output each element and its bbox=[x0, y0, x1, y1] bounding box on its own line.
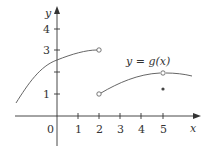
y-tick-1: 1 bbox=[43, 88, 50, 101]
right-branch-curve bbox=[101, 73, 192, 93]
x-tick-2: 2 bbox=[96, 123, 103, 136]
open-point-5-2 bbox=[161, 71, 165, 75]
function-label: y = g(x) bbox=[125, 55, 170, 68]
open-point-2-3 bbox=[97, 48, 101, 52]
x-tick-5: 5 bbox=[160, 123, 167, 136]
x-axis-label: x bbox=[190, 122, 197, 135]
x-axis-arrow-icon bbox=[193, 113, 201, 119]
function-graph: 0 1 2 3 4 5 x 1 3 4 y y = g(x) bbox=[0, 0, 204, 155]
x-tick-3: 3 bbox=[117, 123, 124, 136]
y-axis-label: y bbox=[44, 7, 52, 20]
filled-point-5 bbox=[161, 87, 164, 90]
x-tick-4: 4 bbox=[138, 123, 145, 136]
open-point-2-1 bbox=[97, 92, 101, 96]
origin-label: 0 bbox=[47, 123, 54, 136]
y-axis-arrow-icon bbox=[54, 6, 60, 14]
left-branch-curve bbox=[16, 50, 97, 103]
y-tick-3: 3 bbox=[43, 44, 50, 57]
graph-of-g: 0 1 2 3 4 5 x 1 3 4 y y = g(x) bbox=[0, 0, 204, 155]
x-tick-1: 1 bbox=[75, 123, 82, 136]
y-tick-4: 4 bbox=[43, 23, 50, 36]
